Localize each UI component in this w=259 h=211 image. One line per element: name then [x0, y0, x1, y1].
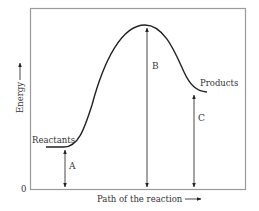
origin-label: 0	[21, 184, 26, 194]
y-axis-label: Energy	[15, 82, 25, 113]
plot-frame	[31, 9, 246, 190]
reactants-label: Reactants	[32, 135, 75, 145]
label-c: C	[198, 113, 205, 123]
label-a: A	[68, 161, 76, 171]
products-label: Products	[200, 78, 238, 88]
label-b: B	[152, 61, 159, 71]
energy-diagram: A B C Reactants Products 0 Path of the r…	[0, 0, 259, 211]
x-axis-label: Path of the reaction	[97, 194, 183, 204]
energy-curve	[46, 25, 207, 147]
